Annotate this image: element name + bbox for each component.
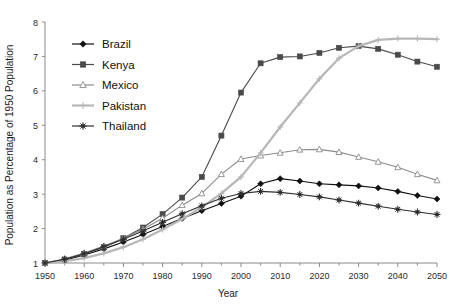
chart-container: 12345678 1950196019701980199020002010202…: [0, 0, 450, 306]
data-point-square-marker: [415, 59, 420, 64]
x-tick-label: 2050: [427, 271, 447, 281]
data-point-square-marker: [317, 50, 322, 55]
y-axis-title: Population as Percentage of 1950 Populat…: [4, 45, 15, 246]
y-tick-label: 8: [33, 18, 38, 28]
x-tick-label: 1980: [153, 271, 173, 281]
legend-item-label: Kenya: [102, 59, 135, 71]
x-tick-label: 1950: [35, 271, 55, 281]
data-point-square-marker: [180, 195, 185, 200]
data-point-square-marker: [199, 174, 204, 179]
legend-item-label: Pakistan: [102, 100, 146, 112]
x-tick-label: 1960: [74, 271, 94, 281]
data-point-square-marker: [238, 90, 243, 95]
data-point-square-marker: [258, 61, 263, 66]
x-tick-label: 2030: [349, 271, 369, 281]
y-tick-label: 1: [33, 259, 38, 269]
legend-item-label: Brazil: [102, 38, 131, 50]
y-tick-label: 3: [33, 190, 38, 200]
y-tick-label: 4: [33, 155, 38, 165]
y-tick-label: 5: [33, 121, 38, 131]
data-point-square-marker: [219, 133, 224, 138]
x-tick-label: 1990: [192, 271, 212, 281]
y-tick-label: 7: [33, 52, 38, 62]
data-point-square-marker: [376, 46, 381, 51]
population-growth-line-chart: 12345678 1950196019701980199020002010202…: [0, 0, 450, 306]
data-point-square-marker: [80, 62, 85, 67]
legend-item-label: Mexico: [102, 79, 138, 91]
x-tick-label: 1970: [113, 271, 133, 281]
x-tick-label: 2010: [270, 271, 290, 281]
x-axis-title: Year: [218, 288, 239, 299]
data-point-square-marker: [278, 55, 283, 60]
y-tick-label: 6: [33, 86, 38, 96]
x-tick-label: 2040: [388, 271, 408, 281]
data-point-square-marker: [434, 64, 439, 69]
x-tick-label: 2000: [231, 271, 251, 281]
data-point-square-marker: [395, 52, 400, 57]
data-point-square-marker: [336, 45, 341, 50]
legend-item-label: Thailand: [102, 120, 146, 132]
x-tick-label: 2020: [309, 271, 329, 281]
y-tick-label: 2: [33, 224, 38, 234]
data-point-square-marker: [297, 54, 302, 59]
